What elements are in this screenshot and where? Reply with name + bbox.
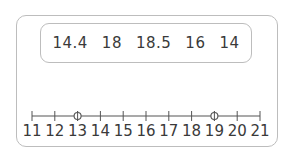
- number-line: 1112131415161718192021: [0, 0, 300, 166]
- tick-label: 13: [68, 122, 87, 140]
- tick-label: 15: [114, 122, 133, 140]
- tick-label: 18: [182, 122, 201, 140]
- tick-label: 11: [22, 122, 41, 140]
- tick-label: 16: [136, 122, 155, 140]
- tick-label: 12: [45, 122, 64, 140]
- tick-label: 20: [228, 122, 247, 140]
- tick-label: 14: [91, 122, 110, 140]
- tick-label: 21: [250, 122, 269, 140]
- tick-label: 19: [205, 122, 224, 140]
- tick-label: 17: [159, 122, 178, 140]
